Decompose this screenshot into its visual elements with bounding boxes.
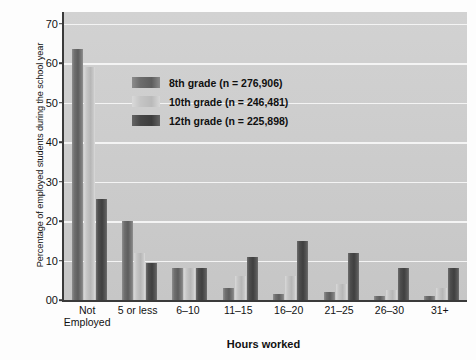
bar <box>348 253 359 300</box>
legend-label: 10th grade (n = 246,481) <box>169 96 288 108</box>
legend-swatch <box>132 77 160 88</box>
gridline <box>64 142 467 144</box>
bar <box>247 257 258 300</box>
bar <box>184 268 195 300</box>
bar <box>122 221 133 300</box>
y-tick-label: 00 <box>46 294 58 306</box>
legend-item: 8th grade (n = 276,906) <box>132 76 288 89</box>
legend-swatch <box>132 96 160 107</box>
legend-item: 12th grade (n = 225,898) <box>132 114 288 127</box>
plot-area: 0010203040506070 <box>62 12 467 302</box>
bar <box>386 290 397 300</box>
gridline <box>64 24 467 26</box>
bar-group <box>316 253 366 300</box>
bar-group <box>114 221 164 300</box>
y-tick-mark <box>59 220 64 222</box>
bar <box>72 49 83 300</box>
bar <box>336 284 347 300</box>
bar <box>324 292 335 300</box>
bar <box>448 268 459 300</box>
y-tick-mark <box>59 260 64 262</box>
bar-group <box>165 268 215 300</box>
x-tick-label: 6–10 <box>176 304 199 316</box>
chart-legend: 8th grade (n = 276,906)10th grade (n = 2… <box>132 76 288 127</box>
y-tick-mark <box>59 181 64 183</box>
bar-group <box>417 268 467 300</box>
chart-figure: Percentage of employed students during t… <box>0 0 476 360</box>
y-tick-label: 70 <box>46 18 58 30</box>
bar-group <box>215 257 265 300</box>
bar <box>196 268 207 300</box>
y-tick-mark <box>59 299 64 301</box>
bar-group <box>366 268 416 300</box>
bar <box>146 263 157 300</box>
bar <box>436 288 447 300</box>
bar-group <box>64 49 114 300</box>
y-tick-mark <box>59 62 64 64</box>
bar-group <box>266 241 316 300</box>
y-tick-label: 10 <box>46 255 58 267</box>
x-tick-label: 31+ <box>431 304 449 316</box>
legend-swatch <box>132 115 160 126</box>
gridline <box>64 63 467 65</box>
y-tick-label: 20 <box>46 215 58 227</box>
y-tick-label: 30 <box>46 176 58 188</box>
x-tick-label: 11–15 <box>224 304 252 316</box>
bar <box>134 253 145 300</box>
bar <box>223 288 234 300</box>
y-tick-label: 50 <box>46 97 58 109</box>
bar <box>172 268 183 300</box>
bar <box>424 296 435 300</box>
bar <box>398 268 409 300</box>
x-tick-label: 26–30 <box>375 304 404 316</box>
bar <box>285 276 296 300</box>
x-tick-label: Not Employed <box>64 304 111 328</box>
y-tick-mark <box>59 141 64 143</box>
y-axis-title: Percentage of employed students during t… <box>35 5 45 305</box>
y-tick-label: 40 <box>46 136 58 148</box>
plot-inner <box>64 12 467 300</box>
y-tick-mark <box>59 23 64 25</box>
bar <box>374 296 385 300</box>
bar <box>235 276 246 300</box>
x-tick-label: 21–25 <box>324 304 353 316</box>
legend-label: 8th grade (n = 276,906) <box>169 77 283 89</box>
y-tick-label: 60 <box>46 57 58 69</box>
y-tick-mark <box>59 102 64 104</box>
x-tick-label: 16–20 <box>274 304 303 316</box>
legend-label: 12th grade (n = 225,898) <box>169 115 288 127</box>
bar <box>96 199 107 300</box>
legend-item: 10th grade (n = 246,481) <box>132 95 288 108</box>
bar <box>84 67 95 300</box>
gridline <box>64 182 467 184</box>
x-tick-label: 5 or less <box>118 304 158 316</box>
bar <box>297 241 308 300</box>
bar <box>273 294 284 300</box>
x-axis-title: Hours worked <box>62 338 465 350</box>
